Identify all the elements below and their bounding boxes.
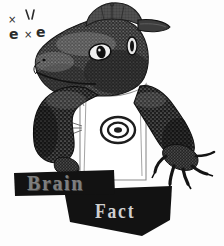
brain-banner-shape	[14, 170, 115, 196]
illustration-canvas	[0, 0, 224, 246]
brain-fact-illustration: Brain Fact × e × e	[0, 0, 224, 246]
